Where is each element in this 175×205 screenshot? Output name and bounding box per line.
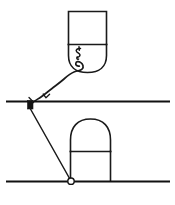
figure-canvas: script-mark line-diagram: [0, 0, 175, 205]
lower-node-marker: [68, 178, 74, 184]
wavy-link-barb: [43, 94, 49, 98]
lower-arch-shape: [71, 119, 111, 181]
diagram-svg: [0, 0, 175, 205]
upper-node-marker: [28, 101, 34, 110]
wavy-link: [32, 62, 84, 104]
diagonal-ray: [30, 109, 71, 182]
wavy-link-path: [32, 62, 84, 104]
lower-node: [68, 178, 74, 184]
upper-shape-round-bottom: [69, 45, 107, 73]
upper-shape-inner-label: [76, 47, 80, 59]
upper-shape-rect-outline: [69, 12, 107, 45]
upper-bullet-shape: [69, 12, 107, 73]
lower-shape-dome: [71, 119, 111, 152]
upper-node: [28, 98, 34, 110]
